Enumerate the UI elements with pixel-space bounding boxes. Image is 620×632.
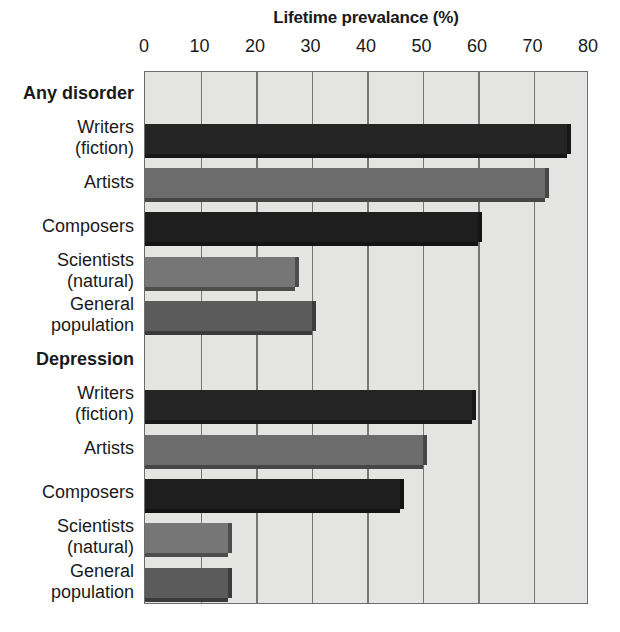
x-tick-label-0: 0: [139, 36, 149, 57]
category-label: Writers(fiction): [75, 383, 134, 425]
x-axis-tick-labels: 01020304050607080: [0, 36, 620, 62]
bar: [145, 523, 228, 553]
bar-bottom-shadow: [145, 198, 545, 202]
category-label: Writers(fiction): [75, 117, 134, 159]
x-tick-label-50: 50: [411, 36, 431, 57]
label-line-1: Any disorder: [23, 83, 134, 103]
bar: [145, 568, 228, 598]
plot-area: [144, 71, 588, 604]
category-label: Generalpopulation: [51, 294, 134, 336]
bar-right-cap: [545, 168, 549, 198]
bar-bottom-shadow: [145, 553, 228, 557]
category-label: Generalpopulation: [51, 561, 134, 603]
bar-bottom-shadow: [145, 154, 567, 158]
bar-right-cap: [228, 568, 232, 598]
bar-right-cap: [400, 479, 404, 509]
category-axis-labels: Any disorderWriters(fiction)ArtistsCompo…: [0, 71, 138, 604]
bar-face: [145, 568, 228, 598]
bar: [145, 479, 400, 509]
label-line-1: Scientists: [57, 516, 134, 536]
label-line-2: (natural): [57, 271, 134, 292]
label-line-1: General: [70, 561, 134, 581]
bar: [145, 257, 295, 287]
bar-face: [145, 301, 312, 331]
x-tick-label-10: 10: [189, 36, 209, 57]
bar-face: [145, 212, 478, 242]
bar-face: [145, 390, 472, 420]
bar-bottom-shadow: [145, 465, 423, 469]
bar-bottom-shadow: [145, 509, 400, 513]
bar-right-cap: [567, 124, 571, 154]
label-line-1: Writers: [77, 117, 134, 137]
x-tick-label-80: 80: [578, 36, 598, 57]
label-line-1: Scientists: [57, 250, 134, 270]
bar-bottom-shadow: [145, 331, 312, 335]
label-line-2: population: [51, 315, 134, 336]
bar-right-cap: [228, 523, 232, 553]
bar-face: [145, 124, 567, 154]
bar-right-cap: [423, 435, 427, 465]
bar: [145, 390, 472, 420]
label-line-1: Composers: [42, 216, 134, 236]
bar-bottom-shadow: [145, 242, 478, 246]
bar: [145, 435, 423, 465]
bar: [145, 301, 312, 331]
category-label: Composers: [42, 482, 134, 503]
label-line-2: population: [51, 582, 134, 603]
x-tick-label-60: 60: [467, 36, 487, 57]
bar-right-cap: [478, 212, 482, 242]
label-line-2: (fiction): [75, 138, 134, 159]
bar: [145, 124, 567, 154]
x-tick-label-20: 20: [245, 36, 265, 57]
bar-bottom-shadow: [145, 598, 228, 602]
group-header-label: Depression: [36, 349, 134, 370]
category-label: Scientists(natural): [57, 250, 134, 292]
bar-right-cap: [312, 301, 316, 331]
x-tick-label-30: 30: [300, 36, 320, 57]
bar-face: [145, 479, 400, 509]
label-line-2: (natural): [57, 537, 134, 558]
bar-face: [145, 257, 295, 287]
bar-bottom-shadow: [145, 287, 295, 291]
label-line-1: Artists: [84, 172, 134, 192]
x-tick-label-40: 40: [356, 36, 376, 57]
bar-face: [145, 168, 545, 198]
group-header-label: Any disorder: [23, 83, 134, 104]
label-line-1: Artists: [84, 438, 134, 458]
label-line-1: General: [70, 294, 134, 314]
bars-layer: [145, 72, 587, 603]
category-label: Composers: [42, 216, 134, 237]
bar-bottom-shadow: [145, 420, 472, 424]
bar-face: [145, 435, 423, 465]
x-tick-label-70: 70: [522, 36, 542, 57]
label-line-2: (fiction): [75, 404, 134, 425]
chart-title: Lifetime prevalance (%): [144, 8, 588, 28]
category-label: Scientists(natural): [57, 516, 134, 558]
label-line-1: Depression: [36, 349, 134, 369]
bar: [145, 168, 545, 198]
bar-chart-figure: Lifetime prevalance (%) 0102030405060708…: [0, 0, 620, 632]
category-label: Artists: [84, 438, 134, 459]
bar-right-cap: [295, 257, 299, 287]
label-line-1: Composers: [42, 482, 134, 502]
category-label: Artists: [84, 172, 134, 193]
bar: [145, 212, 478, 242]
bar-face: [145, 523, 228, 553]
label-line-1: Writers: [77, 383, 134, 403]
bar-right-cap: [472, 390, 476, 420]
